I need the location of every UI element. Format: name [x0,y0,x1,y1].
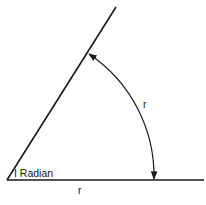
angle-label: I Radian [14,167,53,179]
arc-double-arrow [89,54,154,179]
arc-length-label: r [143,98,147,110]
radian-diagram: I Radian r r [0,0,206,205]
base-radius-label: r [78,184,82,196]
slanted-ray [7,7,116,180]
